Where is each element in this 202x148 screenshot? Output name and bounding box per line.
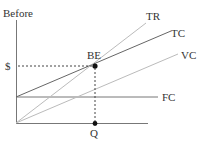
break-even-point [92, 63, 97, 68]
tr-line [16, 23, 146, 123]
break-even-diagram: Before $ BE Q TR TC VC FC [0, 0, 202, 148]
y-axis-label: Before [3, 7, 33, 19]
price-label: $ [5, 60, 11, 72]
quantity-point [93, 121, 98, 126]
fc-label: FC [162, 91, 175, 103]
tr-label: TR [146, 10, 161, 22]
quantity-label: Q [90, 127, 98, 139]
vc-label: VC [181, 49, 196, 61]
tc-label: TC [171, 27, 185, 39]
break-even-label: BE [87, 49, 101, 61]
